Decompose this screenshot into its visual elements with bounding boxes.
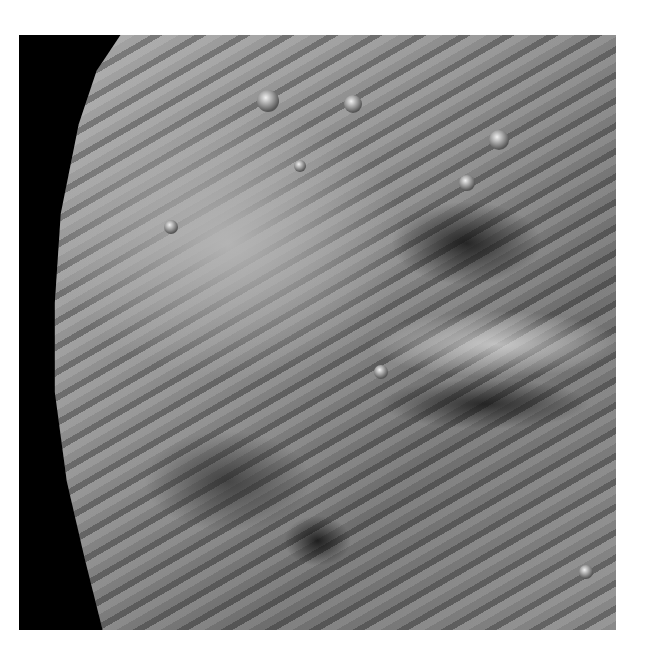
crater [294,160,306,172]
crater [489,130,509,150]
moon-surface [19,35,616,630]
crater [374,365,388,379]
crater [459,175,475,191]
crater [344,95,362,113]
moon-photograph [19,35,616,630]
crater [164,220,178,234]
crater [257,90,279,112]
crater [579,565,593,579]
